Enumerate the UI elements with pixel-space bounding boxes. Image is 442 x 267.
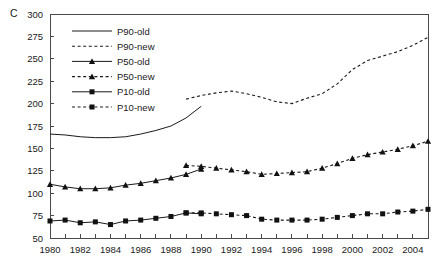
data-point-marker — [350, 213, 355, 218]
series-p10-new — [184, 207, 431, 223]
x-tick-label: 1998 — [312, 244, 333, 255]
data-point-marker — [184, 210, 189, 215]
data-point-marker — [229, 212, 234, 217]
legend-item-p90-old: P90-old — [72, 26, 150, 37]
series-line — [186, 37, 428, 103]
y-tick-label: 50 — [32, 233, 43, 244]
y-tick-label: 175 — [27, 121, 43, 132]
data-point-marker — [108, 222, 113, 227]
y-tick-label: 75 — [32, 210, 43, 221]
data-point-marker — [244, 213, 249, 218]
data-point-marker — [47, 181, 53, 187]
data-point-marker — [319, 165, 325, 171]
x-tick-label: 2002 — [372, 244, 393, 255]
series-p90-new — [186, 37, 428, 103]
y-tick-label: 250 — [27, 53, 43, 64]
data-point-marker — [335, 215, 340, 220]
data-point-marker — [90, 89, 95, 94]
y-tick-label: 125 — [27, 165, 43, 176]
line-chart: C 5075100125150175200225250275300 198019… — [0, 0, 442, 267]
data-point-marker — [349, 155, 355, 161]
data-point-marker — [395, 210, 400, 215]
chart-figure: C 5075100125150175200225250275300 198019… — [0, 0, 442, 267]
x-tick-label: 1980 — [39, 244, 60, 255]
x-tick-label: 1982 — [70, 244, 91, 255]
data-point-marker — [93, 219, 98, 224]
x-tick-label: 1994 — [251, 244, 272, 255]
x-tick-label: 1992 — [221, 244, 242, 255]
axis-lines — [50, 14, 428, 238]
plot-frame — [50, 14, 428, 238]
y-tick-label: 275 — [27, 31, 43, 42]
x-tick-label: 1996 — [281, 244, 302, 255]
y-tick-label: 150 — [27, 143, 43, 154]
data-point-marker — [183, 171, 189, 177]
legend-label: P50-old — [117, 56, 150, 67]
chart-legend: P90-oldP90-newP50-oldP50-newP10-oldP10-n… — [72, 26, 155, 113]
legend-label: P10-old — [117, 86, 150, 97]
data-point-marker — [90, 105, 95, 110]
data-point-marker — [138, 218, 143, 223]
data-point-marker — [305, 218, 310, 223]
data-point-marker — [380, 211, 385, 216]
data-point-marker — [63, 218, 68, 223]
x-tick-label: 2004 — [402, 244, 423, 255]
panel-label: C — [10, 7, 18, 19]
data-point-marker — [334, 161, 340, 167]
data-point-marker — [153, 216, 158, 221]
data-point-marker — [168, 214, 173, 219]
axis-tick-marks — [50, 14, 428, 238]
data-point-marker — [123, 218, 128, 223]
data-point-marker — [274, 218, 279, 223]
y-axis-tick-labels: 5075100125150175200225250275300 — [27, 9, 43, 244]
x-tick-label: 1988 — [160, 244, 181, 255]
data-point-marker — [426, 207, 431, 212]
series-p50-old — [47, 166, 204, 191]
data-point-marker — [410, 209, 415, 214]
x-tick-label: 1986 — [130, 244, 151, 255]
y-tick-label: 225 — [27, 76, 43, 87]
x-tick-label: 1990 — [191, 244, 212, 255]
legend-label: P10-new — [117, 102, 155, 113]
y-tick-label: 200 — [27, 98, 43, 109]
legend-item-p10-old: P10-old — [72, 86, 150, 97]
data-point-marker — [214, 211, 219, 216]
legend-label: P50-new — [117, 71, 155, 82]
x-axis-tick-labels: 1980198219841986198819901992199419961998… — [39, 244, 423, 255]
data-point-marker — [48, 218, 53, 223]
data-point-marker — [320, 217, 325, 222]
data-point-marker — [395, 146, 401, 152]
data-point-marker — [78, 220, 83, 225]
data-point-marker — [259, 217, 264, 222]
data-point-marker — [274, 170, 280, 176]
legend-item-p90-new: P90-new — [72, 41, 155, 52]
panel-label-group: C — [10, 7, 18, 19]
data-point-marker — [199, 210, 204, 215]
legend-item-p50-new: P50-new — [72, 71, 155, 82]
legend-item-p50-old: P50-old — [72, 56, 150, 67]
data-point-marker — [410, 143, 416, 149]
data-point-marker — [289, 218, 294, 223]
series-p50-new — [183, 138, 431, 177]
data-series-group — [47, 37, 431, 227]
series-p10-old — [48, 210, 204, 227]
y-tick-label: 300 — [27, 9, 43, 20]
data-point-marker — [365, 211, 370, 216]
legend-label: P90-old — [117, 26, 150, 37]
y-tick-label: 100 — [27, 188, 43, 199]
legend-item-p10-new: P10-new — [72, 102, 155, 113]
legend-label: P90-new — [117, 41, 155, 52]
data-point-marker — [425, 138, 431, 144]
x-tick-label: 1984 — [100, 244, 121, 255]
x-tick-label: 2000 — [342, 244, 363, 255]
